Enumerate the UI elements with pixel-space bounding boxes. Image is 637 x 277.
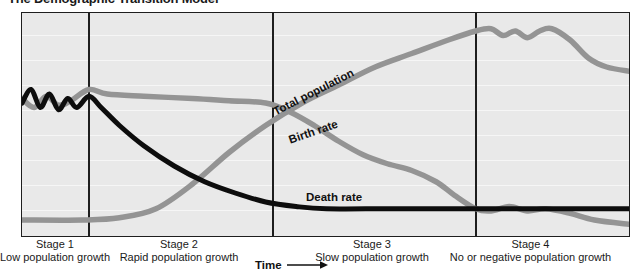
demographic-transition-chart: The Demographic Transition Model [0, 0, 637, 277]
stage-caption-2: Stage 2 Rapid population growth [79, 238, 279, 263]
stage-description: Rapid population growth [79, 251, 279, 264]
curve-label-death-rate: Death rate [306, 191, 362, 203]
stage-name: Stage 2 [79, 238, 279, 251]
series-birth-rate [22, 89, 630, 224]
time-axis-label: Time [255, 259, 282, 271]
right-arrow-icon [287, 260, 329, 270]
stage-description: No or negative population growth [423, 251, 637, 264]
time-axis: Time [255, 259, 329, 271]
stage-caption-4: Stage 4 No or negative population growth [423, 238, 637, 263]
page-title: The Demographic Transition Model [8, 0, 218, 6]
stage-name: Stage 4 [423, 238, 637, 251]
